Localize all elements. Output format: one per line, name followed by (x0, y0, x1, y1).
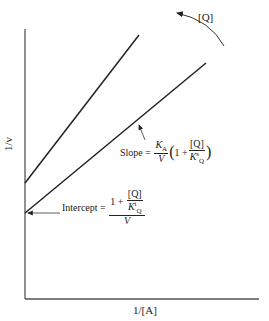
intercept-fraction: 1 + [Q] KiQ V (109, 189, 145, 227)
ka-over-v: KA V (154, 140, 168, 165)
intercept-equation: Intercept = 1 + [Q] KiQ V (62, 189, 146, 227)
slope-prefix: Slope = (120, 147, 151, 158)
slope-pointer (139, 125, 145, 140)
q-arrow-label: [Q] (198, 11, 213, 23)
q-over-kqs: [Q] KsQ (189, 139, 205, 165)
slope-one-plus: 1 + (174, 147, 187, 158)
intercept-prefix: Intercept = (62, 202, 106, 213)
y-axis-label: 1/v (2, 137, 14, 151)
x-axis-label: 1/[A] (133, 304, 157, 316)
slope-equation: Slope = KA V ( 1 + [Q] KsQ ) (120, 139, 211, 165)
